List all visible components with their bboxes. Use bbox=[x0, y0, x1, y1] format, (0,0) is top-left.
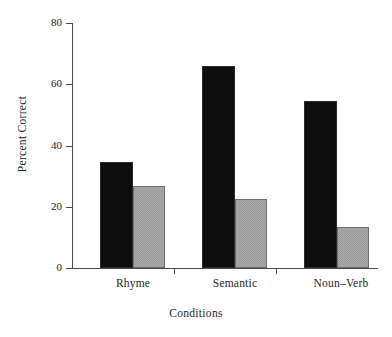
y-axis-tick-label-80: 80 bbox=[22, 17, 62, 28]
y-axis-tick-label-0: 0 bbox=[22, 262, 62, 273]
bar-rhyme-dark bbox=[100, 162, 133, 268]
bar-noun-verb-dark bbox=[304, 101, 337, 268]
x-axis-label-rhyme: Rhyme bbox=[93, 277, 173, 289]
y-axis-title-text: Percent Correct bbox=[16, 96, 28, 172]
bar-semantic-light bbox=[235, 199, 267, 268]
x-axis-line bbox=[72, 268, 378, 269]
x-axis-label-semantic: Semantic bbox=[195, 277, 275, 289]
y-axis-title: Percent Correct bbox=[0, 0, 44, 268]
x-axis-tick-1 bbox=[174, 268, 175, 274]
y-axis-tick-label-40: 40 bbox=[22, 140, 62, 151]
y-axis-tick-label-20: 20 bbox=[22, 201, 62, 212]
bar-noun-verb-light bbox=[337, 227, 369, 268]
bar-semantic-dark bbox=[202, 66, 235, 268]
x-axis-tick-2 bbox=[276, 268, 277, 274]
y-axis-tick-label-60: 60 bbox=[22, 78, 62, 89]
y-axis-tick-0 bbox=[66, 268, 73, 269]
x-axis-title: Conditions bbox=[0, 307, 392, 319]
x-axis-label-noun-verb: Noun–Verb bbox=[296, 277, 386, 289]
plot-area bbox=[72, 23, 378, 268]
bar-chart: Percent Correct 020406080 Rhyme Semantic… bbox=[0, 0, 392, 337]
bar-rhyme-light bbox=[133, 186, 165, 268]
